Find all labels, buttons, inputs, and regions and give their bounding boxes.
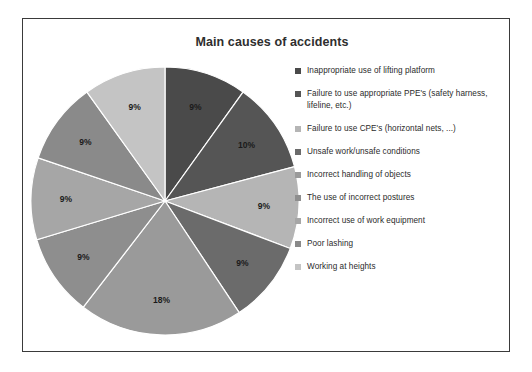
pie-slice-value-label: 9%: [189, 102, 201, 112]
legend-item[interactable]: Unsafe work/unsafe conditions: [295, 146, 501, 158]
legend-item[interactable]: Poor lashing: [295, 238, 501, 250]
legend-swatch-icon: [295, 149, 301, 155]
pie-slice-value-label: 9%: [79, 137, 91, 147]
legend-item-label: Poor lashing: [307, 238, 353, 250]
legend-swatch-icon: [295, 218, 301, 224]
slide-frame: Main causes of accidents 9%10%9%9%18%9%9…: [22, 18, 510, 352]
pie-slice-value-label: 9%: [60, 194, 72, 204]
legend-swatch-icon: [295, 68, 301, 74]
legend-item[interactable]: Working at heights: [295, 261, 501, 273]
legend-item-label: Inappropriate use of lifting platform: [307, 65, 435, 77]
pie-slice-value-label: 18%: [153, 295, 170, 305]
legend-item-label: Failure to use appropriate PPE's (safety…: [307, 88, 501, 111]
legend-item[interactable]: Incorrect use of work equipment: [295, 215, 501, 227]
legend-item-label: Working at heights: [307, 261, 376, 273]
pie-slice-value-label: 9%: [236, 258, 248, 268]
legend-item[interactable]: Failure to use appropriate PPE's (safety…: [295, 88, 501, 111]
legend-swatch-icon: [295, 264, 301, 270]
legend-item-label: Failure to use CPE's (horizontal nets, .…: [307, 123, 456, 135]
chart-legend: Inappropriate use of lifting platformFai…: [295, 65, 501, 284]
legend-item-label: Incorrect use of work equipment: [307, 215, 425, 227]
pie-chart: 9%10%9%9%18%9%9%9%9%: [31, 59, 299, 343]
legend-item-label: The use of incorrect postures: [307, 192, 414, 204]
legend-swatch-icon: [295, 126, 301, 132]
legend-item-label: Unsafe work/unsafe conditions: [307, 146, 420, 158]
legend-item[interactable]: Failure to use CPE's (horizontal nets, .…: [295, 123, 501, 135]
legend-swatch-icon: [295, 241, 301, 247]
legend-swatch-icon: [295, 195, 301, 201]
pie-slice-value-label: 9%: [77, 252, 89, 262]
pie-slice-value-label: 9%: [258, 201, 270, 211]
legend-swatch-icon: [295, 91, 301, 97]
pie-slice-value-label: 10%: [238, 140, 255, 150]
legend-swatch-icon: [295, 172, 301, 178]
page-title: Main causes of accidents: [23, 35, 509, 49]
pie-slice-value-label: 9%: [129, 102, 141, 112]
legend-item[interactable]: The use of incorrect postures: [295, 192, 501, 204]
legend-item-label: Incorrect handling of objects: [307, 169, 411, 181]
legend-item[interactable]: Inappropriate use of lifting platform: [295, 65, 501, 77]
legend-item[interactable]: Incorrect handling of objects: [295, 169, 501, 181]
